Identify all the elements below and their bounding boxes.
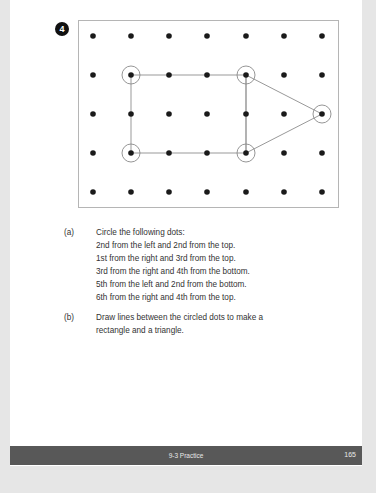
question-text: Circle the following dots: xyxy=(96,226,344,239)
grid-dot[interactable] xyxy=(166,72,172,78)
dot-instruction: 2nd from the left and 2nd from the top. xyxy=(96,239,344,252)
page-footer: 9-3 Practice 165 xyxy=(10,446,362,465)
grid-dot[interactable] xyxy=(128,189,134,195)
grid-dot[interactable] xyxy=(128,72,134,78)
grid-dot[interactable] xyxy=(319,189,325,195)
question-a: (a) Circle the following dots: 2nd from … xyxy=(64,226,344,304)
grid-dot[interactable] xyxy=(319,33,325,39)
grid-dot[interactable] xyxy=(319,150,325,156)
grid-dot[interactable] xyxy=(166,189,172,195)
grid-dot[interactable] xyxy=(128,150,134,156)
grid-dot[interactable] xyxy=(319,111,325,117)
rectangle-shape xyxy=(131,75,246,153)
grid-dot[interactable] xyxy=(281,111,287,117)
grid-dot[interactable] xyxy=(204,111,210,117)
drawn-shapes xyxy=(131,75,322,153)
dot-instruction: 6th from the right and 4th from the top. xyxy=(96,291,344,304)
question-text: Draw lines between the circled dots to m… xyxy=(96,311,344,324)
grid-dot[interactable] xyxy=(128,33,134,39)
grid-dot[interactable] xyxy=(90,189,96,195)
grid-dot[interactable] xyxy=(204,150,210,156)
grid-dot[interactable] xyxy=(243,72,249,78)
dot-instruction: 1st from the right and 3rd from the top. xyxy=(96,252,344,265)
question-marker: (a) xyxy=(64,226,74,239)
grid-dot[interactable] xyxy=(243,150,249,156)
grid-dot[interactable] xyxy=(204,189,210,195)
grid-dot[interactable] xyxy=(90,72,96,78)
grid-dot[interactable] xyxy=(204,72,210,78)
grid-dot[interactable] xyxy=(281,72,287,78)
grid-dot[interactable] xyxy=(90,111,96,117)
circled-dots xyxy=(122,66,331,162)
grid-dot[interactable] xyxy=(281,189,287,195)
question-marker: (b) xyxy=(64,311,74,324)
question-b: (b) Draw lines between the circled dots … xyxy=(64,311,344,337)
grid-dot[interactable] xyxy=(204,33,210,39)
dot-instruction: 5th from the left and 2nd from the botto… xyxy=(96,278,344,291)
grid-dot[interactable] xyxy=(243,189,249,195)
grid-dots xyxy=(90,33,325,195)
grid-dot[interactable] xyxy=(281,33,287,39)
grid-dot[interactable] xyxy=(243,111,249,117)
grid-dot[interactable] xyxy=(319,72,325,78)
grid-dot[interactable] xyxy=(166,33,172,39)
grid-dot[interactable] xyxy=(90,150,96,156)
question-text: rectangle and a triangle. xyxy=(96,324,344,337)
dot-instruction: 3rd from the right and 4th from the bott… xyxy=(96,265,344,278)
grid-dot[interactable] xyxy=(90,33,96,39)
instructions: (a) Circle the following dots: 2nd from … xyxy=(64,226,344,337)
page-number: 165 xyxy=(344,451,356,458)
grid-dot[interactable] xyxy=(166,111,172,117)
section-label: 9-3 Practice xyxy=(10,452,362,459)
grid-dot[interactable] xyxy=(281,150,287,156)
grid-dot[interactable] xyxy=(243,33,249,39)
grid-dot[interactable] xyxy=(166,150,172,156)
grid-dot[interactable] xyxy=(128,111,134,117)
